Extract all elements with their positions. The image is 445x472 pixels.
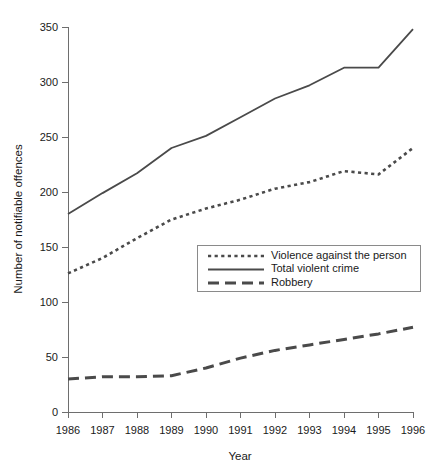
x-tick-label: 1994 — [332, 424, 356, 436]
y-tick-label: 100 — [40, 296, 58, 308]
x-tick-label: 1987 — [90, 424, 114, 436]
x-axis: 1986198719881989199019911992199319941995… — [56, 412, 425, 462]
x-tick-label: 1991 — [228, 424, 252, 436]
y-tick-label: 300 — [40, 76, 58, 88]
y-tick-label: 150 — [40, 241, 58, 253]
y-tick-label: 0 — [52, 406, 58, 418]
legend-label: Violence against the person — [271, 249, 407, 261]
x-tick-label: 1990 — [194, 424, 218, 436]
y-tick-label: 350 — [40, 21, 58, 33]
series-line-solid — [68, 29, 413, 214]
y-tick-group: 050100150200250300350 — [40, 21, 68, 418]
legend-label: Robbery — [271, 276, 313, 288]
chart-canvas: 050100150200250300350 Number of notifiab… — [0, 0, 445, 472]
x-tick-label: 1989 — [159, 424, 183, 436]
x-tick-label: 1995 — [366, 424, 390, 436]
x-tick-label: 1986 — [56, 424, 80, 436]
y-axis: 050100150200250300350 Number of notifiab… — [12, 21, 68, 418]
y-axis-title: Number of notifiable offences — [12, 144, 24, 294]
x-tick-label: 1988 — [125, 424, 149, 436]
series-line-dashed — [68, 327, 413, 379]
x-axis-title: Year — [228, 450, 251, 462]
x-tick-group: 1986198719881989199019911992199319941995… — [56, 412, 425, 436]
legend-label: Total violent crime — [271, 262, 359, 274]
x-tick-label: 1996 — [401, 424, 425, 436]
series-group — [68, 29, 413, 379]
x-tick-label: 1992 — [263, 424, 287, 436]
y-tick-label: 200 — [40, 186, 58, 198]
y-tick-label: 250 — [40, 131, 58, 143]
x-tick-label: 1993 — [297, 424, 321, 436]
chart-legend: Violence against the personTotal violent… — [197, 245, 420, 291]
line-chart: 050100150200250300350 Number of notifiab… — [0, 0, 445, 472]
y-tick-label: 50 — [46, 351, 58, 363]
